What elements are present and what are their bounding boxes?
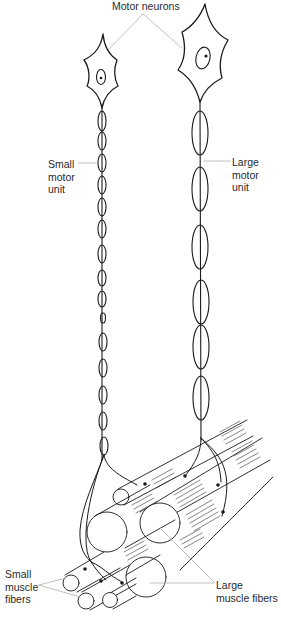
large-motor-unit-label: Large motor unit bbox=[232, 156, 259, 194]
motor-neurons-label: Motor neurons bbox=[112, 0, 180, 13]
large-muscle-fibers-label: Large muscle fibers bbox=[216, 579, 278, 604]
motor-neurons-leaders bbox=[108, 14, 182, 50]
small-axon bbox=[98, 104, 108, 460]
large-neuron-nucleus bbox=[194, 46, 212, 70]
muscle-striations bbox=[124, 421, 260, 560]
large-neuron-cell-body bbox=[178, 4, 228, 102]
motor-unit-leaders bbox=[78, 161, 230, 163]
motor-unit-diagram bbox=[0, 0, 281, 618]
large-axon bbox=[192, 100, 209, 440]
small-muscle-fibers-label: Small muscle fibers bbox=[5, 568, 38, 606]
small-motor-unit-label: Small motor unit bbox=[48, 158, 75, 196]
